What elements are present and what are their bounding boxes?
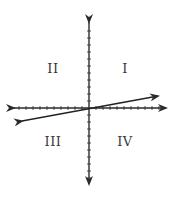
quadrant-label-i: I — [122, 62, 128, 75]
quadrant-label-ii: II — [47, 62, 58, 75]
quadrant-label-iii: III — [45, 135, 62, 148]
quadrant-label-iv: IV — [117, 135, 133, 148]
coordinate-plane-diagram: II I III IV — [0, 0, 175, 200]
coordinate-plane-svg — [0, 0, 175, 200]
